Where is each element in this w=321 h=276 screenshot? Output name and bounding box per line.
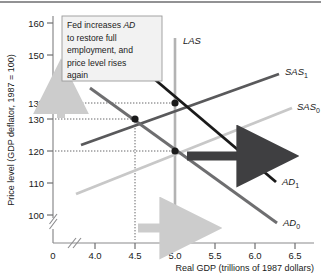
sas0-curve-label: SAS0 [297,101,320,114]
point-c[interactable] [171,99,178,106]
x-label-6-5: 6.5 [288,250,301,261]
sas1-label-sub: 1 [304,72,308,79]
dotted-guides [55,103,175,240]
ad1-label-base: AD [281,176,295,187]
sas0-label-base: SAS [297,101,317,112]
las-curve-label: LAS [183,35,202,46]
annotation-line-4: price level rises [67,58,126,68]
annotation-line-2: to restore full [67,33,117,43]
y-label-135: 135 [28,98,44,109]
ad0-curve-label: AD0 [282,217,300,230]
x-tick-labels: 0 4.0 4.5 5.0 5.5 6.0 6.5 [50,250,301,261]
y-label-110: 110 [29,178,44,189]
point-a[interactable] [131,115,138,122]
y-axis-break-2 [50,219,58,229]
x-axis-title: Real GDP (trillions of 1987 dollars) [176,263,314,273]
ad1-curve[interactable] [146,72,276,182]
annotation-line-1-em: AD [122,20,135,30]
x-label-6-0: 6.0 [248,250,261,261]
y-label-120: 120 [28,146,44,157]
y-label-160: 160 [28,18,44,29]
y-axis-title: Price level (GDP deflator, 1987 = 100) [6,54,16,206]
x-label-5-5: 5.5 [208,250,221,261]
y-label-130: 130 [28,114,44,125]
point-b[interactable] [171,147,178,154]
figure-container: 160 150 135 130 120 110 100 0 4.0 4.5 5.… [0,0,321,276]
annotation-line-1: Fed increases AD [67,20,135,30]
y-tick-labels: 160 150 135 130 120 110 100 [28,18,44,221]
x-label-4-0: 4.0 [88,250,101,261]
sas1-curve-label: SAS1 [285,66,308,79]
x-label-4-5: 4.5 [128,250,141,261]
sas1-label-base: SAS [285,66,305,77]
y-label-100: 100 [28,210,44,221]
annotation-line-3: employment, and [67,45,133,55]
ad1-curve-label: AD1 [281,176,299,189]
annotation-line-5: again [67,70,88,80]
annotation-line-1-text: Fed increases [67,20,123,30]
sas0-label-sub: 0 [316,107,320,114]
fed-annotation: Fed increases AD to restore full employm… [62,16,162,81]
x-label-0: 0 [50,250,55,261]
ad0-label-base: AD [282,217,296,228]
sas1-curve[interactable] [81,74,279,145]
x-label-5-0: 5.0 [168,250,181,261]
ad0-label-sub: 0 [296,223,300,230]
ad-as-chart: 160 150 135 130 120 110 100 0 4.0 4.5 5.… [0,0,321,276]
ad1-label-sub: 1 [295,182,299,189]
sas0-curve[interactable] [76,108,292,194]
y-label-150: 150 [28,50,44,61]
